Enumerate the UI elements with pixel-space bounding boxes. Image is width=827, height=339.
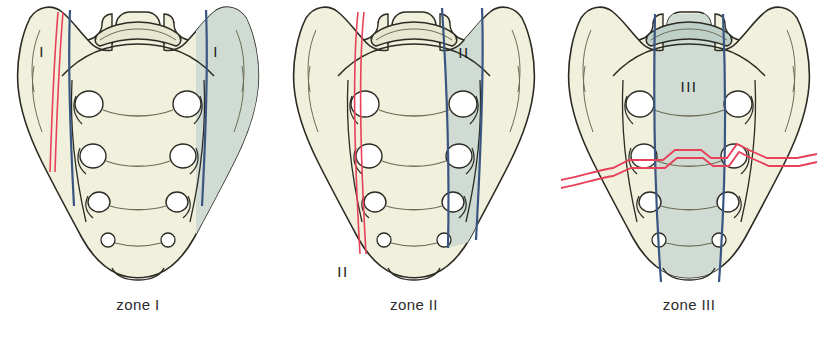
zone-label-left: I — [39, 43, 45, 60]
caption-zone-1: zone I — [0, 296, 276, 313]
caption-zone-3: zone III — [551, 296, 827, 313]
zone-label-band: II — [458, 44, 469, 61]
panel-zone-1: I I zone I — [0, 0, 276, 339]
zone-1-shading-right — [196, 0, 276, 296]
sacral-fracture-zone-figure: I I zone I — [0, 0, 827, 339]
sacrum-outline — [294, 7, 535, 278]
zone-1-shading-left — [0, 0, 62, 296]
zone-label-bottom: II — [337, 263, 348, 280]
panel-zone-3: III zone III — [551, 0, 827, 339]
caption-zone-2: zone II — [276, 296, 552, 313]
zone-label-right: I — [213, 43, 219, 60]
panel-zone-2: II II zone II — [276, 0, 552, 339]
zone-label-band: III — [680, 78, 697, 95]
